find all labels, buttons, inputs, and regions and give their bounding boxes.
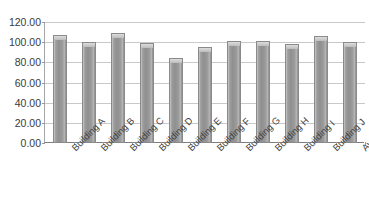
- ytick-label-40: 40.00: [15, 97, 41, 108]
- bar-highlight: [228, 42, 240, 46]
- bar-slot: [45, 22, 74, 143]
- ytick-label-100: 100.00: [9, 37, 41, 48]
- category-label-average: Average: [360, 146, 367, 153]
- bar-building-a[interactable]: [53, 35, 67, 143]
- category-label-building-e: Building E: [186, 146, 193, 153]
- category-label-building-d: Building D: [157, 146, 164, 153]
- category-label-building-c: Building C: [128, 146, 135, 153]
- ytick-label-0: 0.00: [21, 138, 41, 149]
- bar-highlight: [257, 42, 269, 46]
- bar-highlight: [112, 34, 124, 38]
- bar-highlight: [141, 44, 153, 48]
- bar-highlight: [83, 43, 95, 47]
- category-axis-labels: Building ABuilding BBuilding CBuilding D…: [44, 146, 364, 200]
- bar-highlight: [344, 43, 356, 47]
- ytick-mark-0: [42, 143, 45, 144]
- bar-highlight: [315, 37, 327, 41]
- bar-highlight: [170, 59, 182, 63]
- ytick-label-20: 20.00: [15, 118, 41, 129]
- category-label-building-h: Building H: [273, 146, 280, 153]
- ytick-label-60: 60.00: [15, 77, 41, 88]
- category-label-building-b: Building B: [99, 146, 106, 153]
- category-label-building-i: Building I: [302, 146, 309, 153]
- category-label-building-g: Building G: [244, 146, 251, 153]
- bar-highlight: [199, 48, 211, 52]
- category-label-building-j: Building J: [331, 146, 338, 153]
- ytick-label-80: 80.00: [15, 57, 41, 68]
- ytick-label-120: 120.00: [9, 17, 41, 28]
- category-label-building-a: Building A: [70, 146, 77, 153]
- bar-highlight: [286, 45, 298, 49]
- bar-chart: 120.00 100.00 80.00 60.00 40.00 20.00 0.…: [0, 0, 369, 200]
- category-label-building-f: Building F: [215, 146, 222, 153]
- bar-highlight: [54, 36, 66, 40]
